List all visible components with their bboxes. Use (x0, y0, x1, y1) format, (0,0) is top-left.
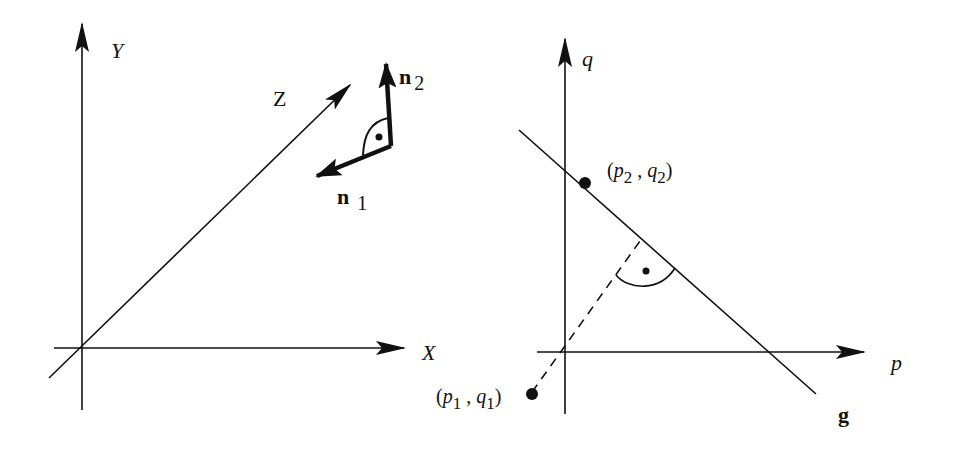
p-subscript: 2 (624, 168, 633, 187)
right-coordinate-system (537, 39, 864, 414)
comma: , (637, 159, 642, 181)
diagram-canvas: Y Z X n2 n1 q p g (p2 , q2) (p1 , q1) (0, 0, 975, 449)
right-angle-dot-left (376, 134, 383, 141)
n1-label: n1 (337, 186, 367, 208)
n1-symbol: n (337, 184, 349, 209)
point-p2-q2 (579, 177, 591, 189)
line-g-label: g (838, 404, 849, 426)
n1-subscript: 1 (357, 192, 367, 214)
p-symbol: p (443, 385, 453, 407)
n2-label: n2 (399, 66, 424, 88)
q-subscript: 1 (486, 394, 495, 413)
left-coordinate-system (49, 24, 404, 410)
z-axis-label: Z (273, 88, 286, 110)
p-subscript: 1 (453, 394, 462, 413)
q-axis-label: q (582, 48, 593, 70)
n2-subscript: 2 (414, 72, 424, 94)
q-subscript: 2 (657, 168, 666, 187)
paren-close: ) (666, 159, 673, 181)
p-symbol: p (614, 159, 624, 181)
comma: , (466, 385, 471, 407)
point-p2-q2-label: (p2 , q2) (607, 160, 672, 180)
diagram-graphics (0, 0, 975, 449)
perpendicular-dashed-line (532, 241, 640, 392)
p-axis-label: p (891, 352, 902, 374)
right-angle-dot-right (643, 268, 650, 275)
paren-open: ( (436, 385, 443, 407)
n2-vector (386, 64, 391, 146)
paren-open: ( (607, 159, 614, 181)
point-p1-q1 (526, 388, 538, 400)
paren-close: ) (495, 385, 502, 407)
z-axis (49, 85, 350, 378)
x-axis-label: X (422, 342, 435, 364)
y-axis-label: Y (111, 40, 123, 62)
q-symbol: q (647, 159, 657, 181)
n1-vector (317, 146, 391, 176)
point-p1-q1-label: (p1 , q1) (436, 386, 501, 406)
n2-symbol: n (399, 64, 411, 89)
q-symbol: q (476, 385, 486, 407)
normal-vectors (317, 64, 391, 176)
